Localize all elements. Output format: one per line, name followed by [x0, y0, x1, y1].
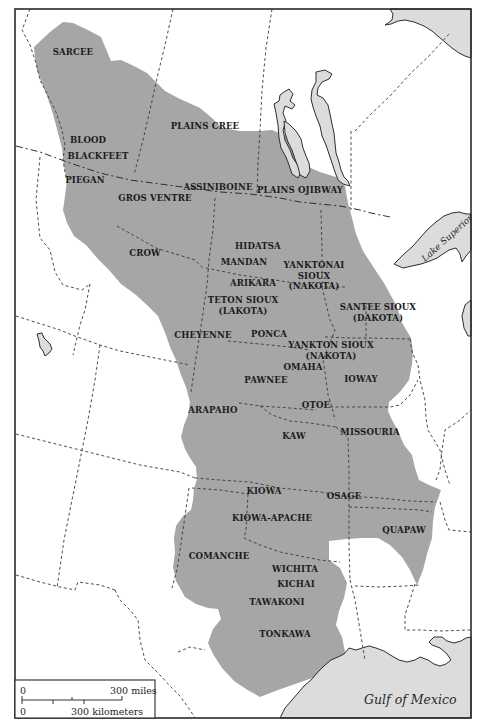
tribe-label-kaw: KAW: [282, 431, 306, 441]
tribe-label-blood: BLOOD: [70, 135, 107, 145]
tribe-label-wichita: WICHITA: [271, 564, 318, 574]
tribe-label-mandan: MANDAN: [221, 257, 268, 267]
tribe-label-quapaw: QUAPAW: [382, 525, 426, 535]
tribe-label-arapaho: ARAPAHO: [187, 405, 238, 415]
lake-winnipeg: [311, 70, 350, 186]
scale-miles-label: 300 miles: [110, 685, 157, 696]
gulf-of-mexico-label: Gulf of Mexico: [364, 692, 457, 707]
scale-km-zero: 0: [20, 706, 26, 717]
tribe-label-hidatsa: HIDATSA: [235, 241, 281, 251]
tribe-label-comanche: COMANCHE: [189, 551, 250, 561]
scale-bar: 0 300 miles 0 300 kilometers: [15, 680, 157, 718]
tribe-label-plains-ojibway: PLAINS OJIBWAY: [257, 185, 344, 195]
tribe-label-ioway: IOWAY: [344, 374, 378, 384]
tribe-label-kichai: KICHAI: [277, 579, 315, 589]
tribe-label-arikara: ARIKARA: [229, 278, 276, 288]
tribe-label-otoe: OTOE: [302, 400, 331, 410]
tribe-label-pawnee: PAWNEE: [244, 375, 288, 385]
scale-miles-zero: 0: [20, 685, 26, 696]
tribe-label-kiowa-apache: KIOWA-APACHE: [232, 513, 313, 523]
tribe-label-plains-cree: PLAINS CREE: [171, 121, 240, 131]
tribe-label-omaha: OMAHA: [284, 362, 323, 372]
lake-michigan: [462, 300, 471, 336]
tribe-label-assiniboine: ASSINIBOINE: [182, 182, 253, 192]
tribe-label-gros-ventre: GROS VENTRE: [118, 193, 192, 203]
plains-tribes-map: Lake Superior Gulf of Mexico SARCEEPLAIN…: [0, 0, 481, 728]
great-salt-lake: [37, 333, 52, 356]
tribe-label-tonkawa: TONKAWA: [259, 629, 311, 639]
scale-km-label: 300 kilometers: [71, 706, 143, 717]
tribe-label-missouria: MISSOURIA: [340, 427, 400, 437]
tribe-label-sarcee: SARCEE: [53, 47, 94, 57]
tribe-label-piegan: PIEGAN: [65, 175, 105, 185]
hudson-bay-water: [385, 9, 471, 58]
tribe-label-cheyenne: CHEYENNE: [174, 330, 232, 340]
tribe-label-kiowa: KIOWA: [246, 486, 281, 496]
tribe-label-tawakoni: TAWAKONI: [249, 597, 304, 607]
tribe-label-osage: OSAGE: [327, 491, 362, 501]
tribe-label-blackfeet: BLACKFEET: [68, 151, 129, 161]
tribe-label-ponca: PONCA: [251, 329, 287, 339]
tribe-label-crow: CROW: [129, 248, 161, 258]
